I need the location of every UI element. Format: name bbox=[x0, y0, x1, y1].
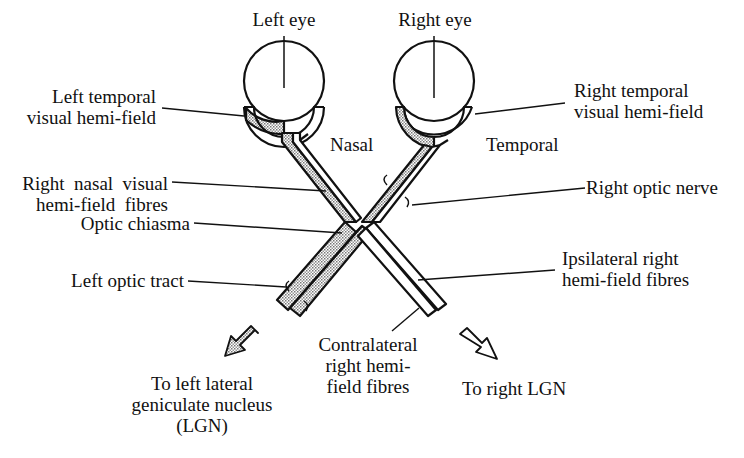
label-contralateral-fibres: Contralateral right hemi- field fibres bbox=[300, 334, 436, 397]
label-right-optic-nerve: Right optic nerve bbox=[586, 177, 718, 198]
left-eye bbox=[244, 36, 324, 147]
to-left-lgn-arrow bbox=[225, 326, 258, 356]
left-optic-tract bbox=[277, 222, 370, 316]
label-right-eye: Right eye bbox=[390, 9, 480, 30]
right-eye bbox=[394, 36, 474, 148]
label-left-temporal-hemifield: Left temporal visual hemi-field bbox=[0, 86, 156, 128]
right-optic-tract bbox=[358, 222, 446, 316]
label-right-nasal-fibres: Right nasal visual hemi-field fibres bbox=[0, 173, 168, 215]
label-left-eye: Left eye bbox=[242, 9, 326, 30]
label-left-optic-tract: Left optic tract bbox=[0, 270, 184, 291]
label-ipsilateral-fibres: Ipsilateral right hemi-field fibres bbox=[562, 248, 689, 290]
label-to-right-lgn: To right LGN bbox=[462, 378, 566, 399]
to-right-lgn-arrow bbox=[460, 328, 497, 359]
label-right-temporal-hemifield: Right temporal visual hemi-field bbox=[574, 80, 703, 122]
label-nasal: Nasal bbox=[330, 134, 373, 155]
label-to-left-lgn: To left lateral geniculate nucleus (LGN) bbox=[118, 373, 286, 436]
right-optic-nerve bbox=[362, 140, 448, 222]
label-temporal: Temporal bbox=[486, 134, 559, 155]
label-optic-chiasma: Optic chiasma bbox=[0, 213, 190, 234]
visual-pathway-diagram: Left eye Right eye Left temporal visual … bbox=[0, 0, 744, 458]
